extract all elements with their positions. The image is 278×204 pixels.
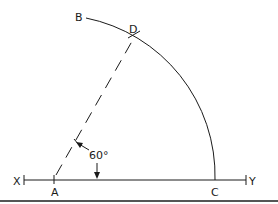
label-y: Y	[248, 175, 256, 188]
label-c: C	[211, 186, 219, 199]
label-angle: 60°	[89, 149, 109, 162]
geometry-diagram: X Y A C B D 60°	[0, 0, 278, 204]
arrowhead-lower-icon	[94, 172, 100, 179]
label-b: B	[75, 11, 83, 24]
bottom-rule	[0, 200, 278, 202]
arrowhead-upper-icon	[76, 142, 83, 148]
label-d: D	[129, 23, 137, 36]
label-a: A	[51, 186, 59, 199]
label-x: X	[13, 175, 21, 188]
